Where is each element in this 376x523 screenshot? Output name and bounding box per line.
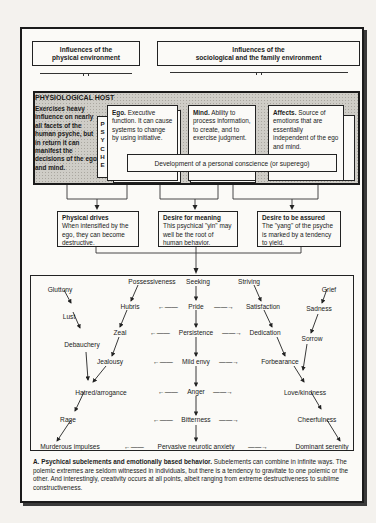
node-seeking: Seeking <box>186 278 210 285</box>
node-pride: Pride <box>188 303 203 310</box>
node-hatred-arrogance: Hatred/arrogance <box>75 389 126 396</box>
figure-caption: A. Psychical subelements and emotionally… <box>33 458 355 492</box>
node-persistence: Persistence <box>179 329 213 336</box>
node-hubris: Hubris <box>120 303 139 310</box>
node-possessiveness: Possessiveness <box>128 278 175 285</box>
right-arrow-anger: ——→ <box>213 388 233 395</box>
node-zeal: Zeal <box>114 329 127 336</box>
caption-label: A. Psychical subelements and emotionally… <box>33 458 212 465</box>
node-bitterness: Bitterness <box>181 416 210 423</box>
node-dominant-serenity: Dominant serenity <box>295 443 348 450</box>
node-jealousy: Jealousy <box>97 358 123 365</box>
node-mild-envy: Mild envy <box>182 358 210 365</box>
node-murderous-impulses: Murderous impulses <box>40 443 99 450</box>
right-arrow-mild-envy: ——→ <box>219 358 239 365</box>
node-dedication: Dedication <box>249 329 280 336</box>
left-arrow-mild-envy: ←—— <box>153 358 173 365</box>
left-arrow-bitterness: ←—— <box>153 416 173 423</box>
node-anger: Anger <box>187 388 205 395</box>
node-striving: Striving <box>238 278 260 285</box>
node-love-kindness: Love/kindness <box>284 389 326 396</box>
right-arrow-bitterness: ——→ <box>219 416 239 423</box>
node-pervasive-neurotic-anxiety: Pervasive neurotic anxiety <box>158 443 235 450</box>
node-debauchery: Debauchery <box>64 341 100 348</box>
node-grief: Grief <box>322 286 336 293</box>
node-satisfaction: Satisfaction <box>246 303 280 310</box>
node-cheerfulness: Cheerfulness <box>298 416 337 423</box>
node-sorrow: Sorrow <box>302 335 323 342</box>
left-arrow-persistence: ←—— <box>150 329 170 336</box>
left-arrow-anger: ←—— <box>158 388 178 395</box>
right-arrow-persistence: ——→ <box>222 329 242 336</box>
node-rage: Rage <box>60 416 76 423</box>
right-arrow-anxiety: ——→ <box>248 443 268 450</box>
left-arrow-anxiety: ←—— <box>124 443 144 450</box>
node-lust: Lust <box>63 313 75 320</box>
right-arrow-pride: ——→ <box>214 303 234 310</box>
node-sadness: Sadness <box>306 305 332 312</box>
left-arrow-pride: ←—— <box>158 303 178 310</box>
node-forbearance: Forbearance <box>261 358 298 365</box>
node-gluttony: Gluttony <box>48 286 73 293</box>
